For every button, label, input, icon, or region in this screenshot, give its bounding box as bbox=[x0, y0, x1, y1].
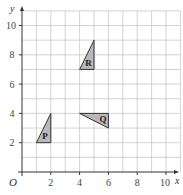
x-tick-label: 4 bbox=[77, 177, 82, 188]
x-axis-arrow-icon bbox=[174, 170, 179, 174]
x-tick-label: 2 bbox=[48, 177, 53, 188]
coordinate-grid-diagram: y x O 2 4 6 8 10 2 4 6 8 10 P Q R bbox=[0, 0, 183, 195]
y-tick-label: 8 bbox=[10, 49, 15, 60]
y-axis-label: y bbox=[9, 3, 15, 14]
y-axis-arrow-icon bbox=[20, 6, 24, 11]
y-tick-label: 10 bbox=[6, 20, 16, 31]
y-tick-label: 6 bbox=[10, 79, 15, 90]
triangle-r-label: R bbox=[85, 58, 92, 68]
triangle-p-label: P bbox=[42, 131, 48, 141]
x-axis-label: x bbox=[174, 175, 180, 186]
origin-label: O bbox=[9, 176, 17, 188]
y-tick-label: 2 bbox=[10, 137, 15, 148]
triangle-q-label: Q bbox=[99, 114, 106, 124]
y-tick-label: 4 bbox=[10, 108, 15, 119]
grid-lines bbox=[22, 11, 180, 172]
x-tick-label: 8 bbox=[135, 177, 140, 188]
x-tick-label: 10 bbox=[160, 177, 170, 188]
x-tick-label: 6 bbox=[106, 177, 111, 188]
